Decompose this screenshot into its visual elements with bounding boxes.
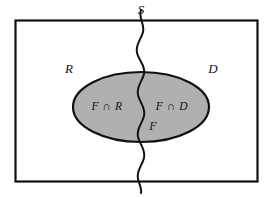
label-intersection-f-d: F ∩ D — [155, 100, 188, 112]
venn-diagram-canvas: S R D F ∩ R F ∩ D F — [0, 0, 274, 197]
label-region-d: D — [207, 61, 218, 76]
label-universal-set-s: S — [138, 2, 145, 17]
label-intersection-f-r: F ∩ R — [90, 100, 122, 112]
set-diagram: S R D F ∩ R F ∩ D F — [0, 0, 274, 197]
label-region-r: R — [64, 61, 73, 76]
label-subset-f: F — [148, 119, 157, 133]
